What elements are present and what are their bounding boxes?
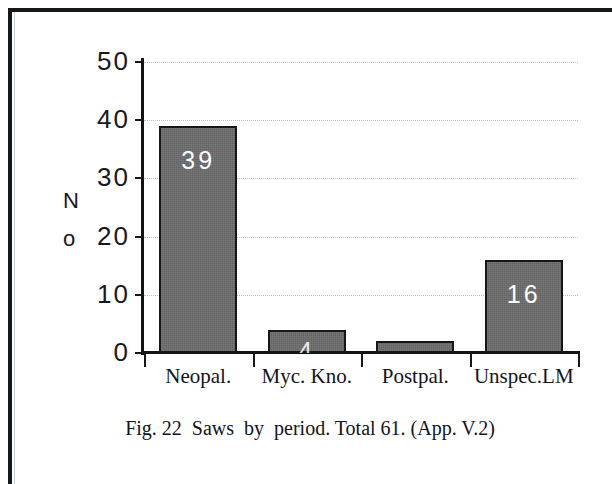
y-tick-label-0: 0 [62,339,130,365]
x-tick-4 [578,354,580,367]
y-axis-title-line1: N [63,190,79,212]
x-axis-label-4: Unspec.LM [470,364,579,388]
gridline-50 [144,62,578,63]
y-tick-label-50: 50 [62,48,130,74]
y-axis-title-line2: o [63,228,75,250]
y-tick-0 [135,352,144,354]
bar-3[interactable] [376,341,454,353]
bar-value-label-2: 4 [268,339,346,353]
gridline-40 [144,120,578,121]
y-tick-20 [135,236,144,238]
y-tick-40 [135,119,144,121]
y-axis-line [141,58,144,355]
y-tick-label-40: 40 [62,106,130,132]
x-axis-label-2: Myc. Kno. [253,364,362,388]
y-tick-label-30: 30 [62,164,130,190]
x-axis-label-1: Neopal. [144,364,253,388]
y-tick-label-10: 10 [62,281,130,307]
bar-value-label-1: 39 [159,148,237,173]
x-axis-label-3: Postpal. [361,364,470,388]
bar-chart-figure: 01020304050 N o 39416 Neopal.Myc. Kno.Po… [0,0,612,484]
y-tick-10 [135,294,144,296]
bar-value-label-4: 16 [485,282,563,307]
y-tick-30 [135,177,144,179]
figure-caption: Fig. 22 Saws by period. Total 61. (App. … [40,416,580,440]
y-tick-50 [135,61,144,63]
